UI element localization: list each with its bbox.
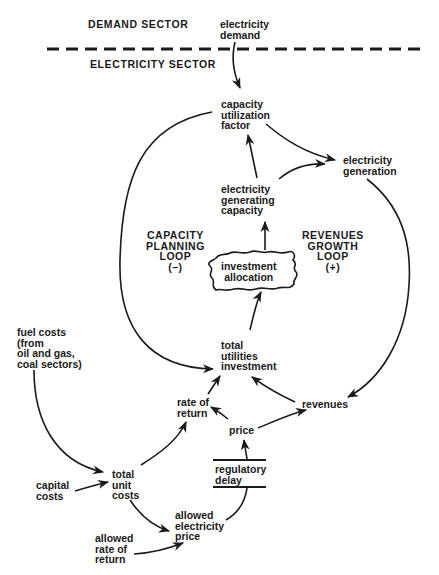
arrow-utilization-to-generation [266, 124, 335, 160]
arrow-revenues-to-investment [252, 377, 295, 402]
node-total-unit-costs: total unit costs [112, 469, 139, 501]
node-electricity-generating-capacity: electricity generating capacity [221, 184, 275, 216]
electricity-sector-label: ELECTRICITY SECTOR [90, 58, 216, 70]
arrow-return-to-investment [208, 376, 220, 394]
node-fuel-costs: fuel costs (from oil and gas, coal secto… [17, 327, 82, 369]
arrow-revenues-growth-loop [348, 179, 409, 397]
node-capacity-utilization-factor: capacity utilization factor [221, 99, 270, 131]
arrow-unit-costs-to-allowed-price [130, 500, 169, 531]
node-investment-allocation: investment allocation [221, 261, 276, 282]
node-revenues: revenues [302, 399, 348, 410]
node-total-utilities-investment: total utilities investment [221, 340, 276, 372]
arrow-allowed-return-to-price [134, 543, 183, 554]
node-price: price [229, 425, 254, 436]
node-capital-costs: capital costs [36, 480, 69, 501]
arrow-capacity-to-generation [279, 164, 325, 179]
arrow-allowed-price-to-delay [226, 488, 247, 520]
node-rate-of-return: rate of return [177, 397, 209, 418]
arrow-price-to-revenues [258, 410, 306, 428]
revenues-growth-loop-label: REVENUES GROWTH LOOP (+) [302, 230, 364, 272]
arrow-capacity-to-utilization [248, 135, 257, 178]
node-electricity-generation: electricity generation [343, 155, 397, 176]
arrow-fuel-to-unit-costs [34, 370, 103, 472]
node-regulatory-delay: regulatory delay [215, 464, 266, 485]
node-allowed-electricity-price: allowed electricity price [175, 510, 224, 542]
demand-sector-label: DEMAND SECTOR [88, 18, 188, 30]
arrow-capital-to-unit-costs [75, 482, 108, 491]
arrow-unit-costs-to-return [141, 422, 186, 465]
node-electricity-demand: electricity demand [220, 19, 269, 40]
arrow-delay-to-price [244, 440, 247, 459]
arrow-investment-to-allocation [250, 292, 261, 330]
arrow-price-to-return [211, 407, 228, 419]
capacity-planning-loop-label: CAPACITY PLANNING LOOP (–) [146, 230, 205, 272]
node-allowed-rate-of-return: allowed rate of return [95, 533, 134, 565]
